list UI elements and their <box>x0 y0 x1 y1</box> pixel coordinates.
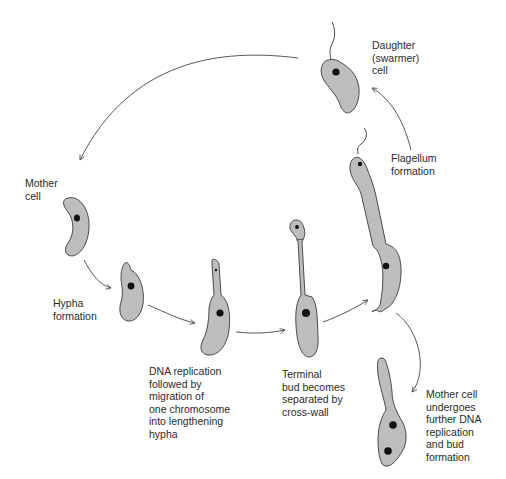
nucleoid <box>74 214 80 221</box>
arrow-terminal-to-flagellum <box>323 300 368 322</box>
nucleoid-upper <box>389 421 397 429</box>
daughter-swarmer-cell <box>321 22 359 113</box>
mother-cell <box>64 198 90 256</box>
nucleoid <box>128 283 135 290</box>
mother-further-budding-cell <box>377 358 406 466</box>
label-mother-further-budding: Mother cell undergoes further DNA replic… <box>426 388 481 464</box>
nucleoid <box>216 309 223 316</box>
arrow-hypha-to-dna <box>148 305 195 323</box>
hypha-formation-cell <box>120 263 144 322</box>
arrow-to-mother-further <box>396 313 420 392</box>
nucleoid <box>302 309 310 317</box>
nucleoid <box>383 263 389 269</box>
terminal-bud-cell <box>290 220 318 357</box>
label-flagellum-formation: Flagellum formation <box>391 152 437 177</box>
bud-nucleoid <box>358 162 362 166</box>
nucleoid-migrating <box>215 269 217 271</box>
arrow-daughter-to-mother <box>80 55 298 160</box>
label-hypha-formation: Hypha formation <box>53 297 97 322</box>
bud-nucleoid <box>295 225 299 229</box>
nucleoid-lower <box>384 447 392 455</box>
arrow-mother-to-hypha <box>84 260 111 288</box>
label-daughter-swarmer-cell: Daughter (swarmer) cell <box>372 39 419 77</box>
label-mother-cell: Mother cell <box>25 177 58 202</box>
dna-replication-cell <box>201 259 230 355</box>
arrow-flagellum-to-daughter <box>372 88 411 150</box>
flagellum <box>330 22 335 60</box>
arrow-dna-to-terminal <box>236 330 285 333</box>
label-dna-replication: DNA replication followed by migration of… <box>149 365 230 441</box>
flagellum <box>358 128 367 154</box>
label-terminal-bud: Terminal bud becomes separated by cross-… <box>282 368 345 418</box>
nucleoid <box>332 68 339 75</box>
